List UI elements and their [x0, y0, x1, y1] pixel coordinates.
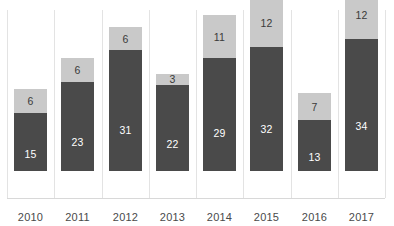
bar-value-label: 3 — [169, 74, 175, 85]
gridline — [338, 10, 339, 198]
bar-segment-lower[interactable]: 31 — [109, 50, 142, 171]
bar-value-label: 6 — [74, 65, 80, 76]
x-axis-tick-2012: 2012 — [109, 211, 142, 223]
x-axis-tick-2014: 2014 — [203, 211, 236, 223]
x-axis-tick-2013: 2013 — [156, 211, 189, 223]
bar-value-label: 23 — [71, 137, 83, 148]
bar-value-label: 11 — [214, 32, 225, 43]
x-axis-tick-2015: 2015 — [250, 211, 283, 223]
bar-value-label: 15 — [24, 149, 36, 160]
bar-value-label: 6 — [27, 96, 33, 107]
bar-value-label: 7 — [311, 102, 317, 113]
bar-segment-lower[interactable]: 13 — [298, 120, 331, 171]
bar-value-label: 32 — [260, 124, 272, 135]
gridline — [7, 10, 8, 198]
stacked-bar-chart: 615623631322112912327131234 201020112012… — [0, 0, 394, 226]
gridline — [54, 10, 55, 198]
gridline — [385, 10, 386, 198]
bar-stack-2013[interactable]: 322 — [156, 74, 189, 171]
bar-value-label: 31 — [119, 125, 131, 136]
x-axis-tick-2016: 2016 — [298, 211, 331, 223]
x-axis-line — [7, 198, 385, 199]
bar-segment-upper[interactable]: 7 — [298, 93, 331, 120]
bar-value-label: 12 — [260, 18, 272, 29]
bar-segment-upper[interactable]: 3 — [156, 74, 189, 86]
bar-value-label: 6 — [122, 34, 128, 45]
x-axis-tick-2010: 2010 — [14, 211, 47, 223]
bar-value-label: 34 — [355, 121, 367, 132]
bar-value-label: 13 — [308, 152, 320, 163]
bar-segment-lower[interactable]: 29 — [203, 58, 236, 171]
gridline — [243, 10, 244, 198]
gridline — [102, 10, 103, 198]
bar-value-label: 12 — [355, 10, 367, 21]
bar-segment-upper[interactable]: 6 — [14, 89, 47, 112]
bar-segment-upper[interactable]: 6 — [61, 58, 94, 81]
x-axis-tick-2017: 2017 — [345, 211, 378, 223]
bar-stack-2015[interactable]: 1232 — [250, 0, 283, 171]
bar-segment-upper[interactable]: 6 — [109, 27, 142, 50]
x-axis-tick-2011: 2011 — [61, 211, 94, 223]
gridline — [149, 10, 150, 198]
bar-segment-lower[interactable]: 34 — [345, 39, 378, 171]
bar-segment-upper[interactable]: 12 — [345, 0, 378, 39]
bar-segment-lower[interactable]: 15 — [14, 113, 47, 171]
gridline — [291, 10, 292, 198]
bar-stack-2014[interactable]: 1129 — [203, 15, 236, 171]
bar-stack-2016[interactable]: 713 — [298, 93, 331, 171]
gridline — [196, 10, 197, 198]
bar-segment-lower[interactable]: 23 — [61, 82, 94, 172]
bar-stack-2012[interactable]: 631 — [109, 27, 142, 171]
bar-value-label: 22 — [166, 139, 178, 150]
bar-value-label: 29 — [213, 128, 225, 139]
bar-segment-lower[interactable]: 22 — [156, 85, 189, 171]
bar-stack-2017[interactable]: 1234 — [345, 0, 378, 171]
bar-segment-lower[interactable]: 32 — [250, 47, 283, 172]
bar-stack-2010[interactable]: 615 — [14, 89, 47, 171]
bar-segment-upper[interactable]: 11 — [203, 15, 236, 58]
plot-area: 615623631322112912327131234 — [0, 0, 394, 199]
bar-stack-2011[interactable]: 623 — [61, 58, 94, 171]
bar-segment-upper[interactable]: 12 — [250, 0, 283, 47]
